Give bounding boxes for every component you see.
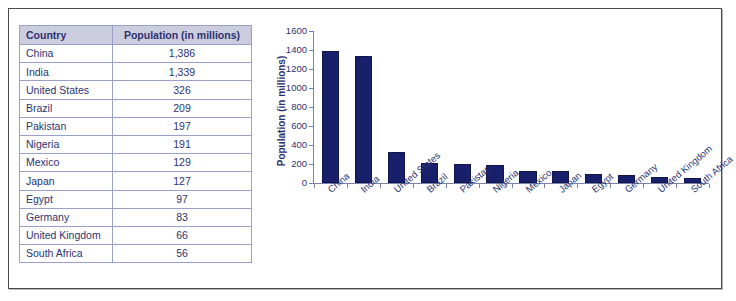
cell-country: United States: [20, 81, 113, 99]
cell-population: 66: [113, 226, 252, 244]
cell-population: 209: [113, 99, 252, 117]
cell-population: 1,339: [113, 63, 252, 81]
bar: [322, 51, 339, 183]
table-row: Japan 127: [20, 172, 252, 190]
cell-population: 197: [113, 117, 252, 135]
cell-country: Germany: [20, 208, 113, 226]
cell-population: 127: [113, 172, 252, 190]
cell-country: Egypt: [20, 190, 113, 208]
cell-population: 56: [113, 245, 252, 263]
y-axis-tick-label: 1000: [286, 83, 307, 93]
column-header-population: Population (in millions): [113, 26, 252, 45]
population-bar-chart: Population (in millions) 020040060080010…: [261, 23, 723, 285]
table-row: China 1,386: [20, 45, 252, 63]
plot-region: 02004006008001000120014001600 ChinaIndia…: [281, 31, 713, 231]
table-header: Country Population (in millions): [20, 26, 252, 45]
cell-country: Japan: [20, 172, 113, 190]
y-axis-tick-label: 400: [291, 140, 307, 150]
population-table: Country Population (in millions) China 1…: [19, 25, 252, 263]
table-row: United States 326: [20, 81, 252, 99]
bar-series: [314, 31, 709, 183]
y-axis-tick-label: 800: [291, 102, 307, 112]
screenshot-root: Country Population (in millions) China 1…: [0, 0, 736, 301]
table-row: Brazil 209: [20, 99, 252, 117]
column-header-country: Country: [20, 26, 113, 45]
y-axis-tick-label: 1400: [286, 45, 307, 55]
cell-population: 83: [113, 208, 252, 226]
y-axis-tick-label: 1200: [286, 64, 307, 74]
table-header-row: Country Population (in millions): [20, 26, 252, 45]
cell-country: South Africa: [20, 245, 113, 263]
cell-country: Nigeria: [20, 135, 113, 153]
table-row: Germany 83: [20, 208, 252, 226]
population-table-container: Country Population (in millions) China 1…: [19, 25, 251, 263]
cell-country: Mexico: [20, 154, 113, 172]
bar: [355, 56, 372, 183]
content-frame: Country Population (in millions) China 1…: [8, 8, 722, 289]
y-axis-tick-label: 0: [302, 178, 307, 188]
cell-country: Brazil: [20, 99, 113, 117]
cell-population: 1,386: [113, 45, 252, 63]
table-row: United Kingdom 66: [20, 226, 252, 244]
table-row: Egypt 97: [20, 190, 252, 208]
y-axis-tick-label: 1600: [286, 26, 307, 36]
cell-country: United Kingdom: [20, 226, 113, 244]
cell-country: India: [20, 63, 113, 81]
cell-population: 97: [113, 190, 252, 208]
cell-population: 191: [113, 135, 252, 153]
table-row: Pakistan 197: [20, 117, 252, 135]
y-axis-tick-label: 600: [291, 121, 307, 131]
cell-population: 129: [113, 154, 252, 172]
y-axis-tick-label: 200: [291, 159, 307, 169]
table-row: India 1,339: [20, 63, 252, 81]
cell-country: Pakistan: [20, 117, 113, 135]
table-body: China 1,386 India 1,339 United States 32…: [20, 45, 252, 263]
cell-population: 326: [113, 81, 252, 99]
table-row: Nigeria 191: [20, 135, 252, 153]
cell-country: China: [20, 45, 113, 63]
y-axis-tick-labels: 02004006008001000120014001600: [281, 31, 311, 183]
table-row: Mexico 129: [20, 154, 252, 172]
table-row: South Africa 56: [20, 245, 252, 263]
x-axis-tick-labels: ChinaIndiaUnited StatesBrazilPakistanNig…: [314, 187, 714, 267]
